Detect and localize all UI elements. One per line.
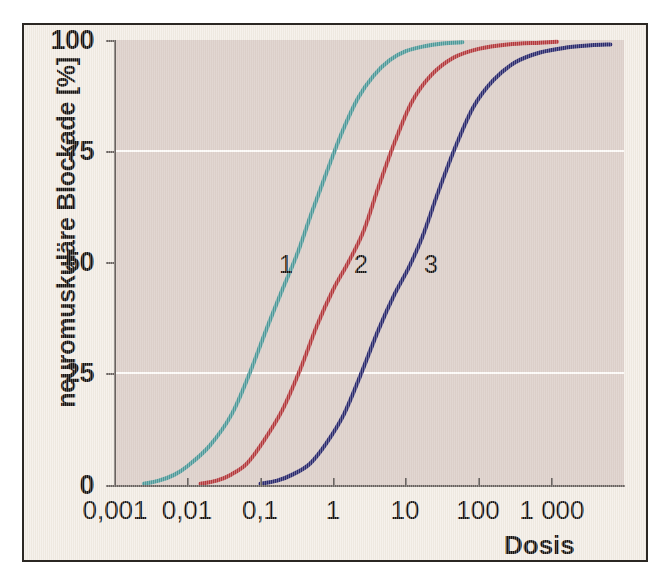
x-tick-10 xyxy=(405,478,407,486)
curve-label-3: 3 xyxy=(424,250,438,279)
y-tick-100 xyxy=(106,40,114,42)
x-tick-label-100: 100 xyxy=(447,495,509,526)
curve-group xyxy=(115,40,624,486)
x-tick-1 xyxy=(333,478,335,486)
curve-label-2: 2 xyxy=(354,250,368,279)
y-tick-50 xyxy=(106,262,114,264)
y-axis-line xyxy=(114,40,116,486)
figure-panel: 100 75 50 25 0 0,001 0,01 0,1 1 10 100 1… xyxy=(22,23,648,562)
curve-series-1 xyxy=(144,42,463,484)
x-tick-0001 xyxy=(114,478,116,486)
x-tick-01 xyxy=(260,478,262,486)
x-tick-100 xyxy=(478,478,480,486)
curve-series-2 xyxy=(201,42,558,484)
x-tick-label-10: 10 xyxy=(380,495,430,526)
x-tick-label-01: 0,1 xyxy=(224,495,296,526)
x-axis-line xyxy=(114,485,625,487)
curve-label-1: 1 xyxy=(279,250,293,279)
x-tick-label-001: 0,01 xyxy=(144,495,230,526)
y-tick-25 xyxy=(106,373,114,375)
x-tick-001 xyxy=(187,478,189,486)
x-tick-label-1: 1 xyxy=(313,495,353,526)
y-tick-0 xyxy=(106,485,114,487)
x-axis-title: Dosis xyxy=(504,530,575,561)
y-tick-75 xyxy=(106,151,114,153)
x-tick-label-1000: 1 000 xyxy=(511,495,593,526)
x-tick-1000 xyxy=(551,478,553,486)
y-axis-title: neuromuskuläre Blockade [%] xyxy=(52,33,81,433)
